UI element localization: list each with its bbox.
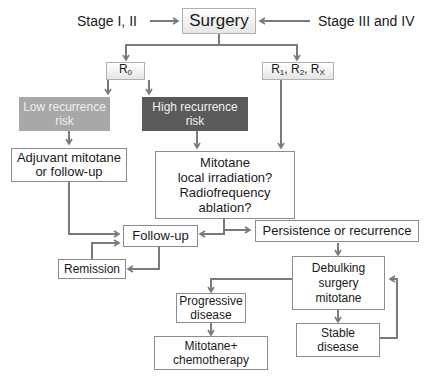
surgery-label: Surgery <box>189 14 249 28</box>
follow-up-box: Follow-up <box>123 225 198 247</box>
stage-i-ii-label: Stage I, II <box>77 13 137 29</box>
mitotane-chemotherapy-box: Mitotane+chemotherapy <box>154 336 268 370</box>
adjuvant-mitotane-box: Adjuvant mitotaneor follow-up <box>11 148 127 182</box>
r0-label: R0 <box>119 62 132 80</box>
r0-box: R0 <box>106 62 145 80</box>
remission-box: Remission <box>58 259 126 279</box>
r1-r2-rx-box: R1, R2, RX <box>262 62 334 80</box>
progressive-disease-box: Progressivedisease <box>176 293 246 323</box>
stable-disease-box: Stabledisease <box>296 323 380 357</box>
persistence-recurrence-box: Persistence or recurrence <box>255 220 419 242</box>
mitotane-irradiation-box: Mitotanelocal irradiation?Radiofrequency… <box>155 151 295 219</box>
low-recurrence-risk-box: Low recurrencerisk <box>19 97 110 131</box>
high-recurrence-risk-box: High recurrencerisk <box>142 97 248 131</box>
stage-iii-iv-label: Stage III and IV <box>318 13 415 29</box>
surgery-box: Surgery <box>182 8 256 34</box>
r1-r2-rx-label: R1, R2, RX <box>271 62 325 80</box>
debulking-surgery-box: Debulkingsurgerymitotane <box>292 256 385 310</box>
